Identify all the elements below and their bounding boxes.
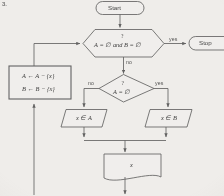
document-label: x: [130, 161, 133, 168]
stop-label: Stop: [199, 39, 212, 46]
loop-condition-label: A = ∅ and B = ∅: [94, 41, 142, 49]
edge-label-test-no: no: [88, 80, 94, 86]
assign-line-1: A ← A − {x}: [22, 72, 55, 79]
edge-label-loop-yes: yes: [169, 36, 177, 42]
edge-test-to-output-a: [84, 89, 99, 108]
test-marker: ?: [122, 80, 124, 86]
output-a-label: x ∈ A: [76, 114, 92, 122]
edge-assign-to-loop: [34, 44, 80, 67]
edge-test-to-output-b: [154, 89, 168, 108]
start-label: Start: [108, 4, 121, 11]
test-condition-label: A = ∅: [113, 88, 130, 96]
edge-label-test-yes: yes: [155, 80, 163, 86]
edge-label-loop-no: no: [126, 59, 132, 65]
figure-number: 3.: [2, 1, 7, 7]
node-assignment: [9, 66, 71, 99]
flowchart-canvas: [0, 0, 224, 196]
loop-marker: ?: [121, 33, 123, 39]
output-b-label: x ∈ B: [161, 114, 177, 122]
assign-line-2: B ← B − {x}: [22, 85, 55, 92]
